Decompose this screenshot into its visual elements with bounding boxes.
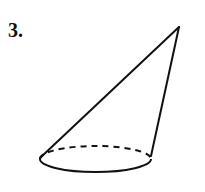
- figure-canvas: 3.: [0, 0, 205, 192]
- cone-base-hidden-edge: [40, 146, 151, 159]
- cone-base-visible-edge: [40, 159, 151, 172]
- cone-diagram: [0, 0, 205, 192]
- cone-right-slant-edge: [151, 27, 179, 156]
- cone-left-slant-edge: [40, 27, 179, 158]
